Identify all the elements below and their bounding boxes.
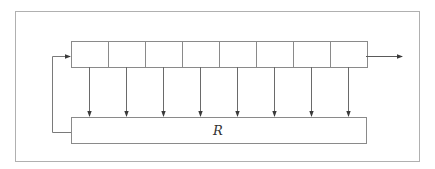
shift-register-diagram: R — [0, 0, 435, 169]
outer-frame — [16, 12, 420, 162]
function-label: R — [212, 123, 223, 138]
feedback-line — [53, 57, 72, 133]
register-cell — [146, 42, 183, 68]
register-cells — [72, 42, 368, 68]
register-cell — [109, 42, 146, 68]
register-cell — [257, 42, 294, 68]
register-cell — [294, 42, 331, 68]
register-cell — [331, 42, 368, 68]
register-cell — [72, 42, 109, 68]
register-cell — [220, 42, 257, 68]
tap-arrows — [90, 67, 349, 116]
register-cell — [183, 42, 220, 68]
